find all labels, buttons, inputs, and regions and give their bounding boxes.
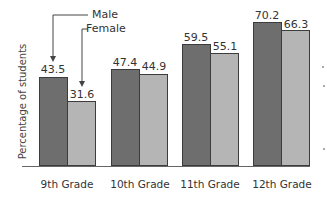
bar-12th-male — [253, 22, 282, 166]
legend-female: Female — [86, 22, 126, 35]
value-11th-female: 55.1 — [205, 40, 245, 53]
x-tick-12th: 12th Grade — [242, 178, 322, 190]
edge-mark — [323, 85, 325, 87]
value-9th-female: 31.6 — [62, 88, 102, 101]
value-9th-male: 43.5 — [33, 63, 73, 76]
x-tick-9th: 9th Grade — [27, 178, 107, 190]
legend-male: Male — [92, 8, 118, 21]
bar-9th-female — [67, 101, 96, 166]
edge-mark — [322, 66, 324, 68]
bar-12th-female — [281, 30, 310, 166]
value-12th-female: 66.3 — [276, 18, 316, 31]
value-10th-female: 44.9 — [134, 60, 174, 73]
x-axis — [22, 166, 310, 167]
edge-mark — [323, 148, 325, 150]
bar-10th-female — [139, 74, 168, 166]
bar-11th-female — [210, 53, 239, 166]
x-tick-10th: 10th Grade — [100, 178, 180, 190]
x-tick-11th: 11th Grade — [170, 178, 250, 190]
bar-10th-male — [111, 69, 140, 166]
bar-11th-male — [182, 44, 211, 166]
